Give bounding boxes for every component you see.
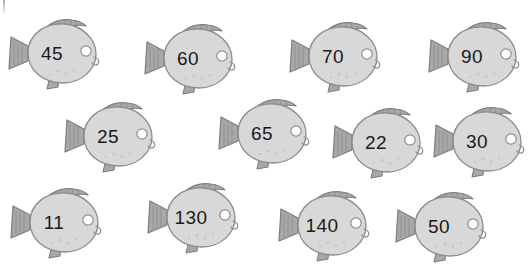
fish-icon-60[interactable]: 60 — [142, 18, 242, 98]
fish-icon-22[interactable]: 22 — [330, 102, 430, 182]
fish-icon-90[interactable]: 90 — [426, 16, 526, 96]
fish-icon-140[interactable]: 140 — [276, 185, 376, 265]
fish-icon-30[interactable]: 30 — [431, 101, 531, 181]
fish-icon-50[interactable]: 50 — [393, 186, 493, 266]
fish-icon-70[interactable]: 70 — [287, 16, 387, 96]
worksheet-canvas: 45 — [0, 0, 532, 269]
fish-icon-25[interactable]: 25 — [62, 96, 162, 176]
fish-icon-65[interactable]: 65 — [216, 93, 316, 173]
corner-artifact-mark — [3, 0, 5, 13]
fish-icon-11[interactable]: 11 — [8, 182, 108, 262]
fish-icon-45[interactable]: 45 — [6, 13, 106, 93]
fish-icon-130[interactable]: 130 — [145, 177, 245, 257]
